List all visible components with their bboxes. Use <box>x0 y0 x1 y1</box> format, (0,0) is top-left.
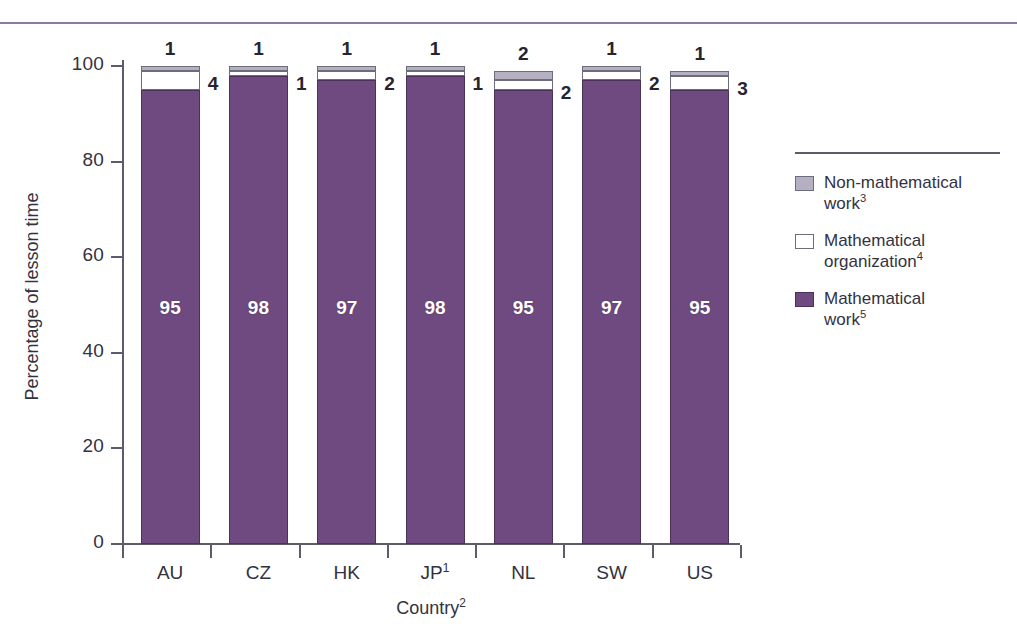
x-axis-title-text: Country <box>396 598 459 618</box>
legend-label-line1: Mathematical <box>824 289 925 308</box>
segment-mathematical-organization[interactable] <box>406 71 465 76</box>
x-tick-text: JP <box>420 562 442 583</box>
y-axis-tick <box>111 352 122 354</box>
value-label-non-mathematical-work: 1 <box>670 43 729 65</box>
bar-sw[interactable]: 9721 <box>582 0 641 636</box>
value-label-mathematical-work: 95 <box>494 297 553 319</box>
value-label-mathematical-work: 97 <box>582 297 641 319</box>
x-axis-tick <box>387 545 389 558</box>
legend-item-0[interactable]: Non-mathematicalwork3 <box>795 172 996 214</box>
x-tick-text: CZ <box>246 562 271 583</box>
x-axis-tick <box>122 545 124 558</box>
y-axis-tick <box>111 543 122 545</box>
x-tick-text: US <box>687 562 713 583</box>
bar-jp[interactable]: 9811 <box>406 0 465 636</box>
segment-non-mathematical-work[interactable] <box>494 71 553 81</box>
x-axis-tick-label: HK <box>307 562 387 584</box>
x-axis-tick-label: CZ <box>218 562 298 584</box>
legend-label-line2: work <box>824 310 860 329</box>
segment-non-mathematical-work[interactable] <box>141 66 200 71</box>
y-axis-tick-label: 20 <box>46 435 104 457</box>
x-axis-tick <box>563 545 565 558</box>
y-axis-tick <box>111 161 122 163</box>
legend-label: Mathematicalorganization4 <box>824 230 996 272</box>
segment-mathematical-organization[interactable] <box>494 80 553 90</box>
legend-label-superscript: 4 <box>917 250 923 262</box>
mathematical-organization-swatch <box>795 234 814 249</box>
stacked-bar-chart-figure: 020406080100 Percentage of lesson time 9… <box>0 0 1017 636</box>
x-axis-title: Country2 <box>0 598 862 619</box>
legend-item-1[interactable]: Mathematicalorganization4 <box>795 230 996 272</box>
segment-non-mathematical-work[interactable] <box>670 71 729 76</box>
x-axis-title-superscript: 2 <box>459 596 466 610</box>
x-tick-text: SW <box>596 562 627 583</box>
legend-rule <box>795 152 1000 154</box>
segment-mathematical-organization[interactable] <box>670 76 729 90</box>
x-tick-text: NL <box>511 562 535 583</box>
x-axis-tick-label: JP1 <box>395 562 475 584</box>
value-label-non-mathematical-work: 1 <box>141 38 200 60</box>
bar-hk[interactable]: 9721 <box>317 0 376 636</box>
segment-non-mathematical-work[interactable] <box>582 66 641 71</box>
legend-label-line1: Mathematical <box>824 231 925 250</box>
value-label-mathematical-work: 98 <box>406 297 465 319</box>
x-axis-tick <box>299 545 301 558</box>
value-label-mathematical-work: 98 <box>229 297 288 319</box>
segment-mathematical-organization[interactable] <box>141 71 200 90</box>
bar-nl[interactable]: 9522 <box>494 0 553 636</box>
value-label-mathematical-work: 95 <box>670 297 729 319</box>
y-axis-tick-label: 60 <box>46 244 104 266</box>
x-axis-tick <box>652 545 654 558</box>
segment-non-mathematical-work[interactable] <box>406 66 465 71</box>
bar-au[interactable]: 9541 <box>141 0 200 636</box>
value-label-non-mathematical-work: 1 <box>406 38 465 60</box>
segment-mathematical-organization[interactable] <box>582 71 641 81</box>
x-tick-superscript: 1 <box>443 561 450 575</box>
x-axis-tick <box>210 545 212 558</box>
value-label-mathematical-work: 95 <box>141 297 200 319</box>
y-axis-title: Percentage of lesson time <box>22 97 43 497</box>
non-mathematical-swatch <box>795 176 814 191</box>
y-axis-tick-label: 80 <box>46 149 104 171</box>
legend-label-line2: work <box>824 194 860 213</box>
legend-label-line1: Non-mathematical <box>824 173 962 192</box>
y-axis-tick <box>111 256 122 258</box>
x-axis-tick <box>740 545 742 558</box>
value-label-non-mathematical-work: 1 <box>229 38 288 60</box>
legend-label-line2: organization <box>824 252 917 271</box>
y-axis-tick-label: 0 <box>46 531 104 553</box>
mathematical-work-swatch <box>795 292 814 307</box>
y-axis-line <box>122 60 124 550</box>
y-axis-tick <box>111 65 122 67</box>
legend-item-2[interactable]: Mathematicalwork5 <box>795 288 996 330</box>
value-label-mathematical-organization: 3 <box>737 78 765 100</box>
x-axis-tick-label: SW <box>572 562 652 584</box>
legend-label-superscript: 3 <box>860 192 866 204</box>
x-tick-text: AU <box>157 562 183 583</box>
segment-non-mathematical-work[interactable] <box>317 66 376 71</box>
x-axis-tick-label: US <box>660 562 740 584</box>
x-axis-tick <box>475 545 477 558</box>
legend-label: Non-mathematicalwork3 <box>824 172 996 214</box>
value-label-non-mathematical-work: 1 <box>317 38 376 60</box>
x-axis-tick-label: NL <box>483 562 563 584</box>
x-axis-tick-label: AU <box>130 562 210 584</box>
value-label-non-mathematical-work: 1 <box>582 38 641 60</box>
legend-label: Mathematicalwork5 <box>824 288 996 330</box>
x-tick-text: HK <box>334 562 360 583</box>
y-axis-tick-label: 100 <box>46 53 104 75</box>
bar-cz[interactable]: 9811 <box>229 0 288 636</box>
y-axis-tick <box>111 447 122 449</box>
legend-label-superscript: 5 <box>860 308 866 320</box>
y-axis-tick-label: 40 <box>46 340 104 362</box>
value-label-mathematical-work: 97 <box>317 297 376 319</box>
bar-us[interactable]: 9531 <box>670 0 729 636</box>
segment-mathematical-organization[interactable] <box>317 71 376 81</box>
segment-mathematical-organization[interactable] <box>229 71 288 76</box>
segment-non-mathematical-work[interactable] <box>229 66 288 71</box>
value-label-non-mathematical-work: 2 <box>494 43 553 65</box>
